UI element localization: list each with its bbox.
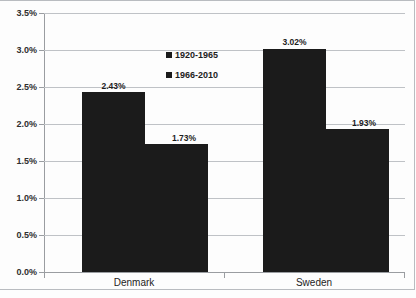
y-axis: 3.5% 3.0% 2.5% 2.0% 1.5% 1.0% 0.5% 0.0% xyxy=(0,13,37,273)
gridline xyxy=(44,13,405,14)
bar-denmark-1966-2010 xyxy=(145,144,208,272)
bar-chart: 3.5% 3.0% 2.5% 2.0% 1.5% 1.0% 0.5% 0.0% … xyxy=(0,0,416,298)
legend-entry-1920-1965[interactable]: 1920-1965 xyxy=(166,48,240,61)
y-tick-label: 3.0% xyxy=(1,45,37,55)
bar-sweden-1920-1965 xyxy=(263,49,326,273)
y-tick-label: 2.5% xyxy=(1,82,37,92)
x-category-label-denmark: Denmark xyxy=(114,277,155,288)
bar-value-label-denmark-1966-2010: 1.73% xyxy=(172,133,196,143)
x-tick-mark xyxy=(224,273,225,278)
bar-value-label-denmark-1920-1965: 2.43% xyxy=(101,81,125,91)
y-tick-label: 0.0% xyxy=(1,267,37,277)
chart-title xyxy=(60,0,360,3)
legend-square-marker-icon xyxy=(166,52,172,58)
chart-legend: 1920-1965 1966-2010 xyxy=(166,48,240,88)
bar-value-label-sweden-1920-1965: 3.02% xyxy=(282,37,306,47)
bar-sweden-1966-2010 xyxy=(326,129,389,272)
legend-entry-1966-2010[interactable]: 1966-2010 xyxy=(166,68,240,81)
x-tick-mark xyxy=(404,273,405,278)
x-tick-mark xyxy=(44,273,45,278)
y-tick-label: 0.5% xyxy=(1,230,37,240)
y-tick-label: 3.5% xyxy=(1,8,37,18)
legend-label: 1920-1965 xyxy=(175,50,218,60)
y-tick-label: 1.0% xyxy=(1,193,37,203)
bar-value-label-sweden-1966-2010: 1.93% xyxy=(352,118,376,128)
bar-denmark-1920-1965 xyxy=(82,92,145,272)
y-tick-label: 2.0% xyxy=(1,119,37,129)
x-category-label-sweden: Sweden xyxy=(296,277,332,288)
legend-label: 1966-2010 xyxy=(175,70,218,80)
legend-square-marker-icon xyxy=(166,72,172,78)
y-tick-label: 1.5% xyxy=(1,156,37,166)
